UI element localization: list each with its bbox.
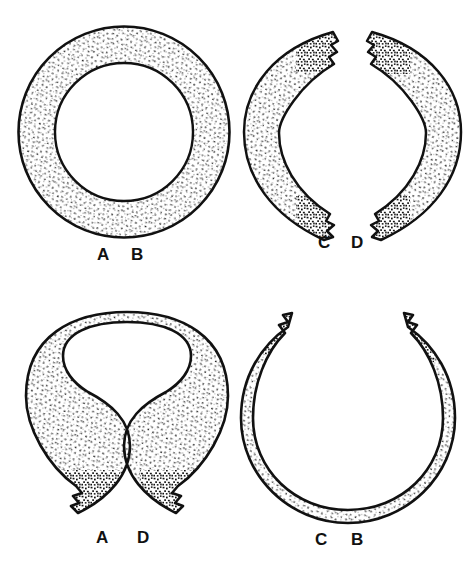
label-bottom-left-d: D: [137, 529, 150, 546]
figure-ring-open-bottom: [10, 300, 240, 540]
figure-ring-open-top: [235, 300, 470, 540]
label-top-right-c: C: [318, 234, 331, 251]
label-bottom-right-c: C: [315, 531, 328, 548]
label-top-left-b: B: [131, 246, 144, 263]
figure-sheet: A B C D A D C B: [0, 0, 471, 571]
label-top-right-d: D: [351, 234, 364, 251]
label-bottom-left-a: A: [96, 529, 109, 546]
figure-fragment-c: [230, 20, 360, 260]
figure-fragment-d: [340, 20, 470, 260]
illustration-canvas: [0, 0, 471, 571]
label-bottom-right-b: B: [351, 531, 364, 548]
label-top-left-a: A: [97, 246, 110, 263]
